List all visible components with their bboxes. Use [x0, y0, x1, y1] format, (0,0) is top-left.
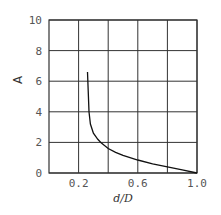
x-tick-labels: 0.20.61.0 [69, 177, 207, 190]
y-tick-label: 2 [35, 136, 42, 149]
x-tick-label: 0.6 [128, 177, 148, 190]
y-tick-labels: 0246810 [29, 14, 43, 180]
y-tick-label: 0 [35, 167, 42, 180]
data-curve [88, 72, 198, 173]
x-tick-label: 1.0 [187, 177, 207, 190]
x-axis-label: d/D [113, 192, 133, 205]
y-tick-label: 10 [29, 14, 42, 27]
x-tick-label: 0.2 [69, 177, 89, 190]
y-axis-label: A [11, 75, 25, 84]
y-tick-label: 4 [35, 106, 42, 119]
grid-lines [49, 20, 197, 173]
y-tick-label: 6 [35, 75, 42, 88]
chart: 0246810 0.20.61.0 A d/D [0, 0, 221, 215]
y-tick-label: 8 [35, 45, 42, 58]
plot-frame [49, 20, 197, 173]
